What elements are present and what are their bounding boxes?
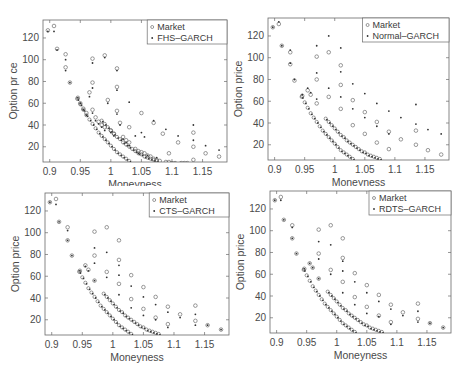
market-point	[351, 123, 355, 127]
market-point	[161, 132, 165, 136]
legend: MarketNormal–GARCH	[363, 18, 449, 42]
model-point	[330, 244, 332, 246]
model-point	[82, 109, 84, 111]
model-point	[390, 323, 392, 325]
market-point	[389, 303, 393, 307]
y-tick-label: 80	[28, 76, 40, 87]
model-point	[442, 327, 444, 329]
model-point	[47, 31, 49, 33]
model-point	[281, 45, 283, 47]
model-point	[77, 97, 79, 99]
model-point	[278, 21, 280, 23]
market-point	[192, 158, 196, 162]
model-point	[376, 103, 378, 105]
market-point	[414, 129, 418, 133]
market-point	[377, 293, 381, 297]
x-tick-label: 1	[334, 337, 340, 348]
y-tick-label: 80	[253, 74, 265, 85]
market-point	[317, 228, 321, 232]
market-point	[327, 50, 331, 54]
market-point	[94, 116, 98, 120]
model-point	[310, 92, 312, 94]
model-point	[101, 126, 103, 128]
model-point	[113, 135, 115, 137]
model-point	[220, 329, 222, 331]
y-tick-label: 60	[30, 271, 42, 282]
market-point	[117, 258, 121, 262]
market-point	[329, 268, 333, 272]
model-point	[454, 329, 456, 331]
market-point	[217, 155, 221, 159]
model-point	[272, 26, 274, 28]
model-point	[65, 70, 67, 72]
model-point	[316, 45, 318, 47]
market-point	[363, 132, 367, 136]
x-tick-label: 0.95	[297, 337, 317, 348]
model-point	[116, 113, 118, 115]
model-point	[130, 285, 132, 287]
market-point	[106, 98, 110, 102]
market-point	[194, 304, 198, 308]
model-point	[143, 296, 145, 298]
market-point	[52, 24, 56, 28]
x-tick-label: 0.95	[73, 339, 93, 350]
model-point	[330, 273, 332, 275]
market-point	[91, 81, 95, 85]
model-point	[177, 135, 179, 137]
y-axis-label: Option pr ce	[7, 62, 19, 119]
model-point	[69, 82, 71, 84]
y-tick-label: 100	[24, 227, 41, 238]
model-point	[291, 237, 293, 239]
market-point	[166, 305, 170, 309]
model-point	[116, 70, 118, 72]
market-point	[426, 148, 430, 152]
model-point	[205, 145, 207, 147]
model-point	[378, 316, 380, 318]
scatter-plot-rdts-garch: 0.90.9511.051.11.1520406080100120Moneyne…	[232, 186, 464, 372]
market-point	[88, 91, 92, 95]
plot-area	[273, 195, 457, 334]
market-point	[167, 151, 171, 155]
legend-item-model: RDTS–GARCH	[379, 204, 441, 214]
y-tick-label: 40	[30, 293, 42, 304]
model-point	[364, 93, 366, 95]
model-point	[143, 315, 145, 317]
y-tick-label: 60	[28, 98, 40, 109]
market-point	[317, 252, 321, 256]
x-tick-label: 1.15	[195, 339, 215, 350]
model-point	[194, 313, 196, 315]
market-point	[341, 237, 345, 241]
model-point	[316, 72, 318, 74]
model-point	[218, 149, 220, 151]
subplot-fhs-garch: 0.90.9511.051.11.1520406080100120Moneyne…	[0, 0, 232, 186]
legend-item-market: Market	[373, 20, 401, 30]
market-point	[315, 102, 319, 106]
model-point	[119, 124, 121, 126]
market-point	[127, 141, 131, 145]
model-point	[364, 117, 366, 119]
market-point	[154, 295, 158, 299]
market-point	[401, 311, 405, 315]
market-point	[365, 283, 369, 287]
model-point	[390, 308, 392, 310]
market-point	[115, 85, 119, 89]
y-tick-label: 120	[24, 205, 41, 216]
model-point	[318, 241, 320, 243]
market-point	[117, 282, 121, 286]
model-point	[342, 292, 344, 294]
market-point	[105, 270, 109, 274]
model-point	[376, 125, 378, 127]
market-point	[306, 89, 310, 93]
market-point	[439, 153, 443, 157]
y-tick-label: 80	[30, 249, 42, 260]
market-point	[192, 131, 196, 135]
market-point	[339, 107, 343, 111]
model-point	[192, 139, 194, 141]
model-point	[194, 324, 196, 326]
legend-item-model: FHS–GARCH	[157, 33, 213, 43]
model-point	[296, 253, 298, 255]
market-point	[353, 271, 357, 275]
model-point	[104, 130, 106, 132]
model-point	[179, 317, 181, 319]
market-point	[375, 141, 379, 145]
